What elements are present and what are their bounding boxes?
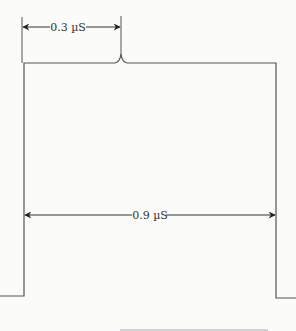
pulse-waveform — [0, 54, 296, 298]
top-dimension: 0.3 µS — [22, 16, 121, 63]
middle-dimension-label: 0.9 µS — [132, 209, 168, 222]
pulse-diagram: 0.3 µS 0.9 µS — [0, 0, 296, 331]
top-dimension-label: 0.3 µS — [50, 21, 86, 34]
middle-dimension: 0.9 µS — [25, 209, 275, 222]
